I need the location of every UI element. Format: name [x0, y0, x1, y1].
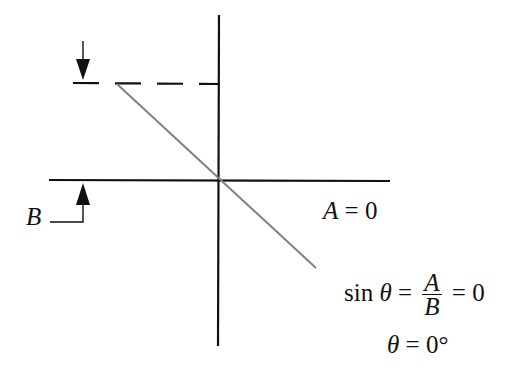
fraction-denominator: B: [422, 295, 441, 319]
fraction-numerator: A: [422, 272, 441, 295]
theta-value: = 0°: [406, 331, 449, 358]
vector-line: [117, 84, 316, 268]
arrow-down-icon: [76, 41, 90, 80]
a-equals-zero-label: A = 0: [323, 197, 377, 225]
theta-symbol: θ: [379, 279, 391, 306]
b-label: B: [26, 203, 41, 231]
a-variable: A: [323, 197, 338, 224]
a-over-b-fraction: A B: [422, 272, 441, 319]
equals-sign: =: [398, 279, 412, 306]
theta-symbol-result: θ: [387, 331, 399, 358]
equals-zero: = 0: [452, 279, 485, 306]
dashed-reference-line: [73, 83, 220, 84]
diagram-canvas: [0, 0, 529, 377]
a-equals-value: = 0: [345, 197, 378, 224]
arrow-up-icon: [50, 183, 90, 222]
sin-function: sin: [344, 279, 373, 306]
sine-equation: sin θ = A B = 0: [344, 268, 485, 319]
horizontal-axis: [49, 180, 390, 181]
theta-result-equation: θ = 0°: [387, 331, 448, 359]
